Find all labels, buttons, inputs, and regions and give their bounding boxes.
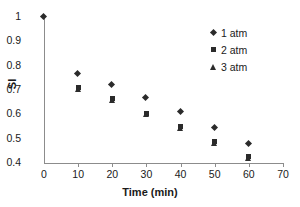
x-tick-label: 50 bbox=[200, 168, 230, 180]
legend-item[interactable]: 3 atm bbox=[207, 58, 287, 75]
data-point bbox=[143, 111, 149, 117]
legend-item-label: 2 atm bbox=[219, 44, 247, 56]
x-tick-mark bbox=[249, 164, 250, 167]
data-point bbox=[142, 94, 149, 101]
legend: 1 atm2 atm3 atm bbox=[207, 24, 287, 75]
x-tick-mark bbox=[78, 164, 79, 167]
x-tick-label: 70 bbox=[268, 168, 298, 180]
y-tick-label: 0.5 bbox=[0, 132, 21, 144]
square-marker-icon bbox=[207, 44, 219, 56]
data-point bbox=[245, 155, 251, 161]
y-tick-label: 0.8 bbox=[0, 59, 21, 71]
x-tick-label: 20 bbox=[97, 168, 127, 180]
y-tick-label: 0.9 bbox=[0, 34, 21, 46]
legend-item[interactable]: 1 atm bbox=[207, 24, 287, 41]
x-axis-title: Time (min) bbox=[0, 186, 300, 198]
data-point bbox=[74, 70, 81, 77]
data-point bbox=[211, 124, 218, 131]
x-tick-label: 10 bbox=[63, 168, 93, 180]
y-tick-label: 1 bbox=[0, 10, 21, 22]
x-tick-label: 40 bbox=[166, 168, 196, 180]
legend-item-label: 3 atm bbox=[219, 61, 247, 73]
diamond-marker-icon bbox=[207, 27, 219, 39]
legend-item[interactable]: 2 atm bbox=[207, 41, 287, 58]
x-tick-label: 0 bbox=[29, 168, 59, 180]
x-tick-mark bbox=[181, 164, 182, 167]
legend-item-label: 1 atm bbox=[219, 27, 247, 39]
y-tick-label: 0.7 bbox=[0, 83, 21, 95]
data-point bbox=[245, 140, 252, 147]
chart-container: SI Time (min) 0.40.50.60.70.80.91 010203… bbox=[0, 0, 300, 207]
y-axis-line bbox=[44, 17, 45, 164]
x-tick-mark bbox=[215, 164, 216, 167]
data-point bbox=[40, 13, 47, 20]
data-point bbox=[211, 140, 217, 146]
x-tick-label: 60 bbox=[234, 168, 264, 180]
data-point bbox=[75, 86, 81, 92]
x-tick-mark bbox=[112, 164, 113, 167]
data-point bbox=[177, 125, 183, 131]
x-tick-mark bbox=[283, 164, 284, 167]
x-tick-label: 30 bbox=[131, 168, 161, 180]
data-point bbox=[108, 81, 115, 88]
data-point bbox=[177, 108, 184, 115]
data-point bbox=[109, 97, 115, 103]
y-tick-label: 0.4 bbox=[0, 156, 21, 168]
x-tick-mark bbox=[146, 164, 147, 167]
triangle-marker-icon bbox=[207, 61, 219, 73]
y-tick-label: 0.6 bbox=[0, 107, 21, 119]
